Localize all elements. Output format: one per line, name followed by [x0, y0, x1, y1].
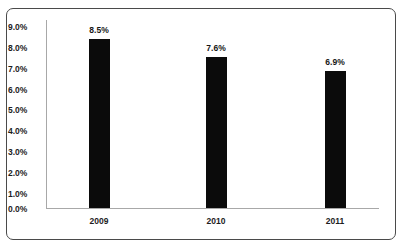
bar-2009: [89, 39, 110, 208]
y-tick-label-3: 3.0%: [8, 148, 44, 157]
bar-value-2010: 7.6%: [191, 43, 241, 53]
y-tick-label-1: 1.0%: [8, 190, 44, 199]
x-tick-label-2009: 2009: [69, 216, 129, 226]
x-axis-line: [46, 208, 379, 209]
y-axis-line: [46, 20, 47, 209]
x-tick-label-2010: 2010: [186, 216, 246, 226]
x-tick-label-2011: 2011: [305, 216, 365, 226]
y-tick-label-8: 8.0%: [8, 44, 44, 53]
y-tick-label-2: 2.0%: [8, 169, 44, 178]
y-tick-label-6: 6.0%: [8, 86, 44, 95]
bar-value-2011: 6.9%: [310, 57, 360, 67]
bar-chart: 9.0% 8.0% 7.0% 6.0% 5.0% 4.0% 3.0% 2.0% …: [0, 0, 404, 248]
y-tick-label-7: 7.0%: [8, 65, 44, 74]
bar-value-2009: 8.5%: [74, 25, 124, 35]
y-tick-label-4: 4.0%: [8, 127, 44, 136]
y-tick-label-5: 5.0%: [8, 106, 44, 115]
bar-2010: [206, 57, 227, 208]
y-tick-label-9: 9.0%: [8, 23, 44, 32]
y-tick-label-0: 0.0%: [8, 205, 44, 214]
bar-2011: [325, 71, 346, 208]
chart-title-clipped: [0, 0, 404, 7]
y-axis-tick-labels: 9.0% 8.0% 7.0% 6.0% 5.0% 4.0% 3.0% 2.0% …: [8, 0, 44, 248]
